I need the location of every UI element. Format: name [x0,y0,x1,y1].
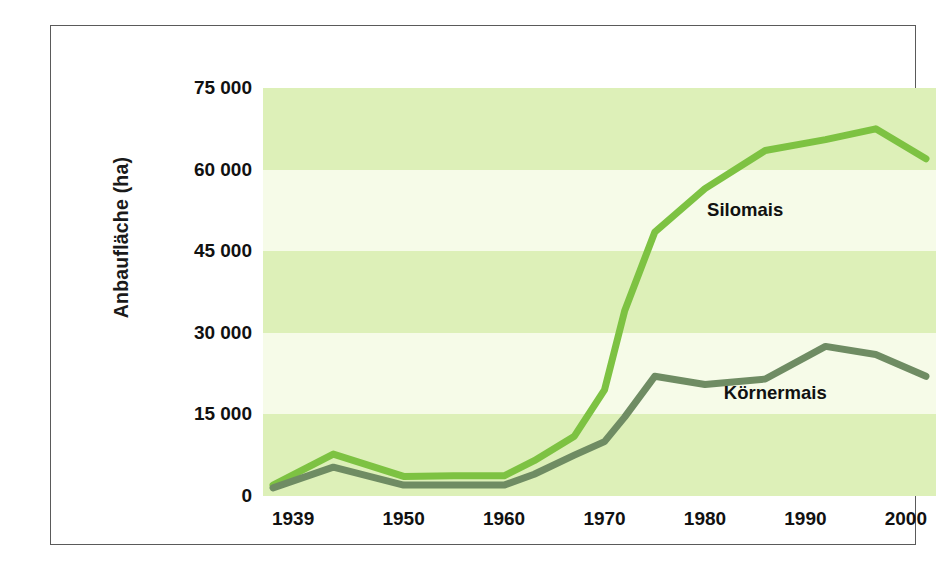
y-axis-tick-label: 45 000 [194,240,252,262]
plot-area: 015 00030 00045 00060 00075 000193919501… [263,88,936,496]
x-axis-tick-label: 1970 [583,508,625,530]
x-axis-tick-label: 2000 [885,508,927,530]
chart-figure: Anbaufläche (ha) 015 00030 00045 00060 0… [0,0,945,567]
series-lines [263,88,936,496]
x-axis-tick-label: 1950 [382,508,424,530]
krnermais-label: Körnermais [724,382,827,404]
x-axis-tick-label: 1980 [684,508,726,530]
y-axis-tick-label: 60 000 [194,159,252,181]
series-line [273,129,926,485]
x-axis-tick-label: 1939 [272,508,314,530]
y-axis-tick-label: 30 000 [194,322,252,344]
silomais-label: Silomais [707,199,783,221]
x-axis-tick-label: 1960 [483,508,525,530]
y-axis-tick-label: 0 [241,485,252,507]
y-axis-title: Anbaufläche (ha) [110,108,133,368]
y-axis-tick-label: 15 000 [194,403,252,425]
figure-frame: Anbaufläche (ha) 015 00030 00045 00060 0… [50,25,916,545]
y-axis-tick-label: 75 000 [194,77,252,99]
x-axis-tick-label: 1990 [784,508,826,530]
